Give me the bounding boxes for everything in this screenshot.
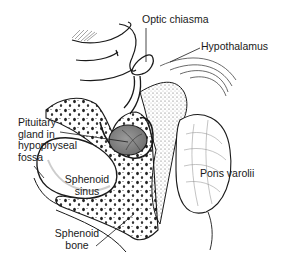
frontal-lobe-outline — [72, 22, 136, 81]
label-hypothalamus: Hypothalamus — [201, 41, 268, 53]
label-sphenoid-bone: Sphenoid bone — [54, 228, 100, 251]
pons-varolii-shape — [176, 115, 231, 213]
label-sphenoid-sinus: Sphenoid sinus — [62, 174, 112, 197]
label-pituitary-line3: hypophyseal — [18, 140, 77, 152]
label-optic-chiasma: Optic chiasma — [142, 14, 209, 26]
cerebrum-hatching — [72, 30, 97, 41]
label-sphenoid-sinus-line1: Sphenoid — [62, 174, 112, 186]
label-sphenoid-sinus-line2: sinus — [62, 186, 112, 198]
label-pons-varolii: Pons varolii — [200, 168, 254, 180]
label-pituitary-line4: fossa — [18, 152, 77, 164]
label-sphenoid-bone-line2: bone — [54, 240, 100, 252]
label-pituitary-gland: Pituitary gland in hypophyseal fossa — [18, 117, 77, 163]
label-sphenoid-bone-line1: Sphenoid — [54, 228, 100, 240]
label-pituitary-line1: Pituitary — [18, 117, 77, 129]
